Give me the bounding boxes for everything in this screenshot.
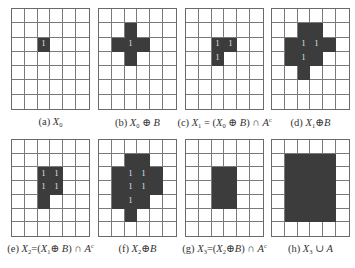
empty-cell xyxy=(186,23,199,37)
empty-cell xyxy=(199,209,212,223)
filled-cell xyxy=(38,195,51,209)
empty-cell xyxy=(12,80,25,94)
empty-cell xyxy=(99,80,112,94)
empty-cell xyxy=(336,154,349,168)
empty-cell xyxy=(298,9,311,23)
empty-cell xyxy=(12,154,25,168)
empty-cell xyxy=(186,38,199,52)
empty-cell xyxy=(99,9,112,23)
empty-cell xyxy=(76,80,89,94)
empty-cell xyxy=(272,140,285,154)
empty-cell xyxy=(25,95,38,109)
filled-cell xyxy=(212,195,225,209)
empty-cell xyxy=(285,222,298,236)
empty-cell xyxy=(38,140,51,154)
empty-cell xyxy=(336,140,349,154)
empty-cell xyxy=(186,154,199,168)
empty-cell xyxy=(336,222,349,236)
empty-cell xyxy=(336,181,349,195)
empty-cell xyxy=(250,167,263,181)
filled-cell xyxy=(323,38,336,52)
empty-cell xyxy=(38,9,51,23)
caption-d: (d) X1⊕B xyxy=(291,116,331,129)
empty-cell xyxy=(199,52,212,66)
empty-cell xyxy=(25,181,38,195)
filled-cell: 1 xyxy=(125,167,138,181)
empty-cell xyxy=(50,38,63,52)
empty-cell xyxy=(150,80,163,94)
empty-cell xyxy=(199,140,212,154)
empty-cell xyxy=(237,80,250,94)
empty-cell xyxy=(76,66,89,80)
filled-cell xyxy=(112,195,125,209)
empty-cell xyxy=(99,167,112,181)
empty-cell xyxy=(163,140,176,154)
filled-cell: 1 xyxy=(50,167,63,181)
empty-cell xyxy=(25,38,38,52)
empty-cell xyxy=(150,195,163,209)
empty-cell xyxy=(310,140,323,154)
filled-cell xyxy=(224,195,237,209)
empty-cell xyxy=(12,181,25,195)
filled-cell xyxy=(224,167,237,181)
empty-cell xyxy=(63,23,76,37)
empty-cell xyxy=(224,154,237,168)
grid-c: 111 xyxy=(185,8,264,110)
filled-cell xyxy=(298,195,311,209)
empty-cell xyxy=(237,95,250,109)
empty-cell xyxy=(38,154,51,168)
filled-cell xyxy=(310,195,323,209)
empty-cell xyxy=(237,154,250,168)
empty-cell xyxy=(76,222,89,236)
empty-cell xyxy=(99,154,112,168)
empty-cell xyxy=(199,95,212,109)
empty-cell xyxy=(12,222,25,236)
empty-cell xyxy=(237,23,250,37)
filled-cell: 1 xyxy=(310,38,323,52)
empty-cell xyxy=(323,222,336,236)
empty-cell xyxy=(63,209,76,223)
empty-cell xyxy=(272,38,285,52)
empty-cell xyxy=(12,195,25,209)
empty-cell xyxy=(50,66,63,80)
empty-cell xyxy=(250,66,263,80)
empty-cell xyxy=(212,95,225,109)
empty-cell xyxy=(112,52,125,66)
filled-cell: 1 xyxy=(212,52,225,66)
caption-h: (h) X3 ∪ A xyxy=(288,242,333,255)
empty-cell xyxy=(112,9,125,23)
empty-cell xyxy=(237,66,250,80)
empty-cell xyxy=(237,222,250,236)
empty-cell xyxy=(336,66,349,80)
filled-cell xyxy=(137,38,150,52)
filled-cell: 1 xyxy=(298,38,311,52)
filled-cell xyxy=(310,154,323,168)
filled-cell: 1 xyxy=(137,167,150,181)
empty-cell xyxy=(285,80,298,94)
empty-cell xyxy=(99,195,112,209)
filled-cell xyxy=(125,209,138,223)
empty-cell xyxy=(25,222,38,236)
empty-cell xyxy=(272,23,285,37)
empty-cell xyxy=(99,181,112,195)
empty-cell xyxy=(336,23,349,37)
filled-cell xyxy=(212,181,225,195)
empty-cell xyxy=(125,66,138,80)
filled-cell: 1 xyxy=(50,181,63,195)
empty-cell xyxy=(63,195,76,209)
empty-cell xyxy=(186,167,199,181)
empty-cell xyxy=(224,80,237,94)
filled-cell xyxy=(323,154,336,168)
filled-cell xyxy=(285,209,298,223)
empty-cell xyxy=(199,167,212,181)
empty-cell xyxy=(250,209,263,223)
empty-cell xyxy=(50,80,63,94)
empty-cell xyxy=(112,95,125,109)
empty-cell xyxy=(137,66,150,80)
empty-cell xyxy=(285,23,298,37)
empty-cell xyxy=(137,222,150,236)
empty-cell xyxy=(310,80,323,94)
filled-cell xyxy=(298,209,311,223)
caption-g: (g) X3=(X2⊕B) ∩ Ac xyxy=(182,242,266,255)
empty-cell xyxy=(112,66,125,80)
